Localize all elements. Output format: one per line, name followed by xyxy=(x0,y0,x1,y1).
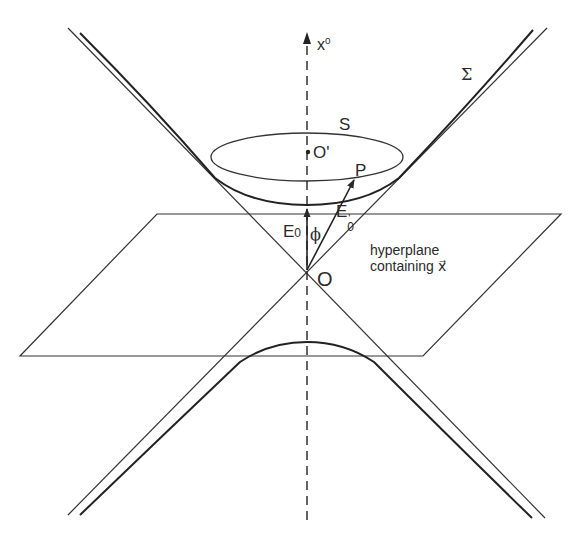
lower-hyperboloid xyxy=(80,342,532,518)
origin-prime-dot xyxy=(306,150,310,154)
origin-label: O xyxy=(317,269,333,289)
e0-label-base: E xyxy=(283,222,294,241)
hyperplane-label-line1: hyperplane xyxy=(370,242,446,258)
e0-label: E0 xyxy=(283,223,301,240)
diagram-canvas xyxy=(0,0,579,542)
axis-label-base: x xyxy=(317,36,325,53)
x0-axis-arrow-icon xyxy=(303,32,311,44)
surface-s-label: S xyxy=(339,116,350,133)
e0-prime-label-sub: 0 xyxy=(347,221,354,233)
hyperplane-label: hyperplane containing x⃗ xyxy=(370,242,446,274)
e0-prime-label-base: E xyxy=(336,202,347,221)
e0-label-sub: 0 xyxy=(294,226,301,240)
origin-prime-label: O' xyxy=(313,144,329,161)
sigma-label: Σ xyxy=(461,67,472,83)
e0-prime-label: E'0 xyxy=(336,203,355,220)
point-p-label: P xyxy=(355,162,366,179)
hyperplane-label-containing: containing xyxy=(370,258,434,274)
vector-x-symbol: x⃗ xyxy=(438,258,446,274)
hyperplane-label-line2: containing x⃗ xyxy=(370,258,446,274)
upper-hyperboloid xyxy=(80,30,533,205)
axis-label: x0 xyxy=(317,36,331,53)
phi-label: ϕ xyxy=(310,227,321,243)
axis-label-sup: 0 xyxy=(325,35,331,46)
